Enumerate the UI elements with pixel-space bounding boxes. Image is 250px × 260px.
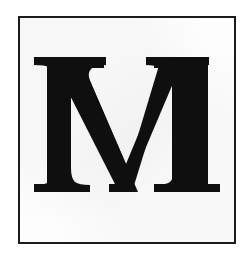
scanned-page: M — [0, 0, 250, 260]
letter-m-svg: M — [20, 18, 238, 246]
letter-m-apex-foot — [109, 184, 124, 192]
letter-m-right-diagonal — [121, 62, 172, 192]
letter-m-top-left-serif — [49, 57, 104, 68]
letter-m-artwork: M — [20, 18, 238, 246]
letter-m-top-right-serif — [154, 57, 207, 68]
letter-m-left-foot-serif — [34, 184, 80, 192]
letter-m-right-foot-serif — [154, 184, 220, 192]
plate-border: M — [18, 16, 236, 244]
letter-m-right-stem — [172, 65, 208, 185]
